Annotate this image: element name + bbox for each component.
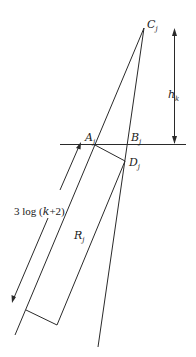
arrowhead-down-icon [172, 136, 177, 144]
segment-a-d [95, 145, 125, 161]
line-c-to-right [98, 28, 144, 347]
rect-right-side [57, 161, 125, 325]
label-a: Aj [84, 131, 96, 146]
line-c-to-left [15, 28, 144, 335]
length-arrow-lower [13, 218, 48, 300]
length-arrow-upper [60, 144, 80, 190]
label-r: Rj [73, 229, 85, 244]
arrowhead-up-icon [172, 28, 177, 36]
rect-bottom [26, 310, 57, 325]
diagram-canvas: Cj hk Aj Bj Dj Rj 3 log (k+2) [0, 0, 196, 357]
label-length: 3 log (k+2) [14, 205, 65, 218]
label-h: hk [168, 88, 179, 103]
label-c: Cj [147, 18, 158, 33]
label-b: Bj [130, 131, 142, 146]
label-d: Dj [128, 156, 141, 171]
arrowhead-length-top-icon [76, 142, 81, 150]
arrowhead-length-bottom-icon [12, 295, 17, 303]
